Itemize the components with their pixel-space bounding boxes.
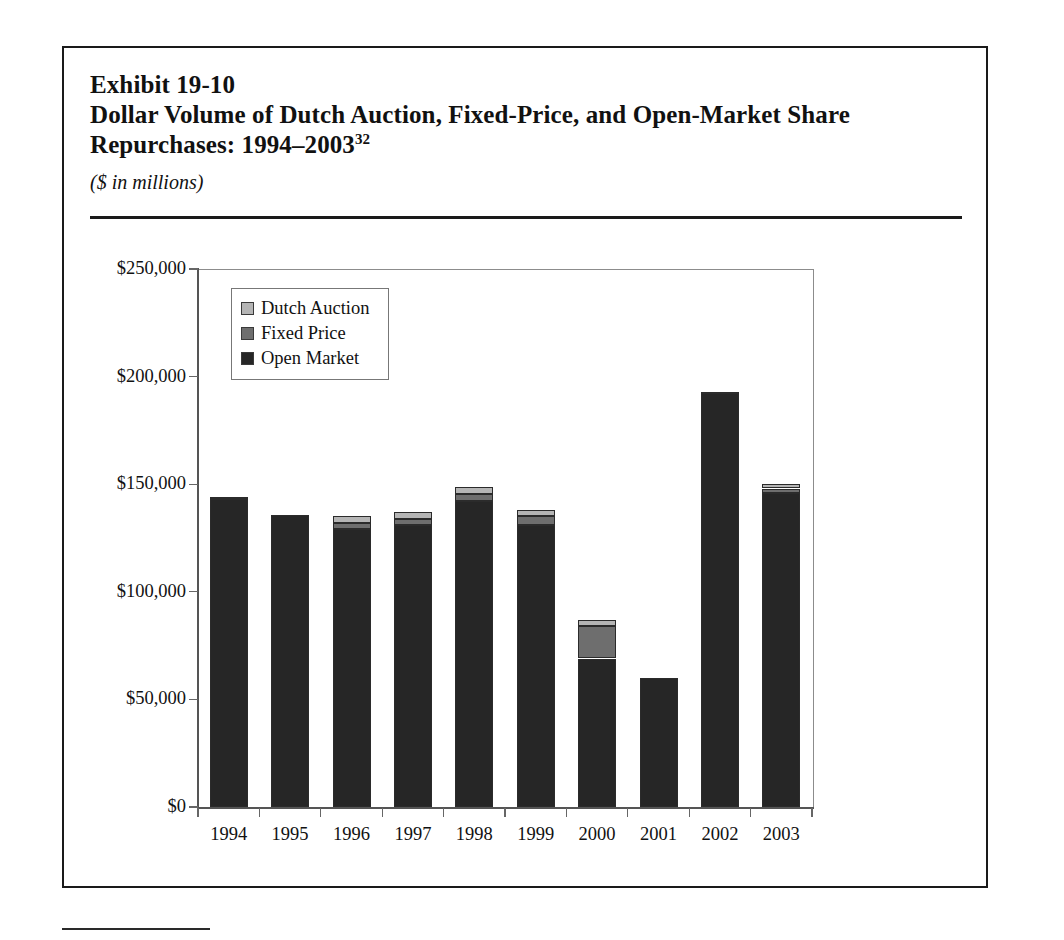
bar-segment-open-market[interactable] bbox=[455, 501, 493, 807]
y-axis-tick bbox=[189, 699, 198, 700]
legend-item-label: Fixed Price bbox=[261, 323, 346, 344]
bar-segment-open-market[interactable] bbox=[640, 678, 678, 807]
x-axis-tick bbox=[627, 808, 628, 817]
bar-segment-fixed-price[interactable] bbox=[578, 626, 616, 658]
bar-segment-fixed-price[interactable] bbox=[455, 494, 493, 502]
bar-stack[interactable] bbox=[394, 269, 432, 807]
legend-item-label: Dutch Auction bbox=[261, 298, 369, 319]
x-axis-tick bbox=[750, 808, 751, 817]
legend-item-label: Open Market bbox=[261, 348, 359, 369]
bar-segment-open-market[interactable] bbox=[578, 659, 616, 807]
bar-stack[interactable] bbox=[640, 269, 678, 807]
exhibit-frame: Exhibit 19-10 Dollar Volume of Dutch Auc… bbox=[62, 46, 988, 888]
bar-segment-open-market[interactable] bbox=[701, 393, 739, 807]
legend-item-fixed[interactable]: Fixed Price bbox=[241, 321, 379, 346]
x-axis-tick bbox=[197, 808, 198, 817]
bar-stack[interactable] bbox=[578, 269, 616, 807]
bar-segment-open-market[interactable] bbox=[394, 525, 432, 807]
y-axis-tick-label: $200,000 bbox=[76, 366, 186, 387]
x-axis-tick bbox=[382, 808, 383, 817]
chart-area: $250,000$200,000$150,000$100,000$50,000$… bbox=[64, 48, 990, 890]
legend-swatch-icon bbox=[241, 302, 254, 315]
x-axis-tick-label: 2003 bbox=[741, 824, 821, 845]
y-axis-tick bbox=[189, 268, 198, 269]
bar-stack[interactable] bbox=[455, 269, 493, 807]
bar-segment-open-market[interactable] bbox=[517, 525, 555, 807]
y-axis-tick-label: $250,000 bbox=[76, 258, 186, 279]
y-axis-tick bbox=[189, 591, 198, 592]
x-axis-tick bbox=[811, 808, 812, 817]
bar-segment-dutch-auction[interactable] bbox=[394, 512, 432, 518]
bar-segment-open-market[interactable] bbox=[333, 529, 371, 807]
bar-segment-dutch-auction[interactable] bbox=[578, 620, 616, 626]
x-axis-tick bbox=[259, 808, 260, 817]
x-axis-tick bbox=[443, 808, 444, 817]
y-axis-tick-label: $100,000 bbox=[76, 581, 186, 602]
bar-segment-dutch-auction[interactable] bbox=[517, 510, 555, 516]
x-axis-tick bbox=[320, 808, 321, 817]
y-axis-tick-label: $150,000 bbox=[76, 473, 186, 494]
bar-segment-fixed-price[interactable] bbox=[333, 523, 371, 530]
bar-segment-fixed-price[interactable] bbox=[517, 516, 555, 525]
x-axis-tick bbox=[566, 808, 567, 817]
bar-segment-dutch-auction[interactable] bbox=[333, 516, 371, 522]
y-axis-line bbox=[197, 268, 199, 809]
bar-segment-open-market[interactable] bbox=[210, 499, 248, 807]
bar-segment-fixed-price[interactable] bbox=[394, 519, 432, 525]
bar-stack[interactable] bbox=[517, 269, 555, 807]
bar-segment-open-market[interactable] bbox=[762, 493, 800, 807]
legend-item-open[interactable]: Open Market bbox=[241, 346, 379, 371]
bar-stack[interactable] bbox=[701, 269, 739, 807]
y-axis-tick-label: $0 bbox=[76, 796, 186, 817]
chart-legend: Dutch AuctionFixed PriceOpen Market bbox=[231, 288, 389, 380]
x-axis-tick bbox=[504, 808, 505, 817]
bar-segment-fixed-price[interactable] bbox=[762, 489, 800, 493]
bar-segment-fixed-price[interactable] bbox=[210, 497, 248, 499]
bar-stack[interactable] bbox=[762, 269, 800, 807]
bar-segment-dutch-auction[interactable] bbox=[455, 487, 493, 493]
y-axis-tick bbox=[189, 376, 198, 377]
y-axis-tick bbox=[189, 484, 198, 485]
footnote-divider bbox=[62, 928, 210, 930]
bar-segment-dutch-auction[interactable] bbox=[762, 484, 800, 488]
x-axis-tick bbox=[689, 808, 690, 817]
bar-segment-fixed-price[interactable] bbox=[701, 392, 739, 394]
bar-segment-open-market[interactable] bbox=[271, 515, 309, 807]
legend-swatch-icon bbox=[241, 327, 254, 340]
legend-item-dutch[interactable]: Dutch Auction bbox=[241, 296, 379, 321]
legend-swatch-icon bbox=[241, 352, 254, 365]
y-axis-tick-label: $50,000 bbox=[76, 688, 186, 709]
